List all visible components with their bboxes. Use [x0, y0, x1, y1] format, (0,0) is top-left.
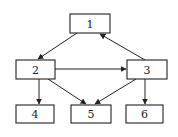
- node-6: 6: [126, 105, 163, 123]
- edge-3-to-5: [95, 79, 136, 104]
- node-6-label: 6: [141, 108, 148, 121]
- node-5: 5: [71, 105, 111, 123]
- node-4-label: 4: [32, 108, 39, 121]
- node-3: 3: [127, 60, 167, 79]
- graph-diagram: 1 2 3 4 5 6: [0, 0, 178, 137]
- node-2-label: 2: [32, 64, 39, 77]
- node-3-label: 3: [144, 64, 151, 77]
- edge-1-to-2: [38, 33, 77, 59]
- edge-2-to-5: [48, 79, 86, 104]
- edge-3-to-1: [100, 34, 145, 60]
- node-1: 1: [70, 14, 110, 33]
- node-5-label: 5: [88, 108, 95, 121]
- node-4: 4: [16, 105, 54, 123]
- node-1-label: 1: [87, 18, 94, 31]
- node-2: 2: [16, 60, 55, 79]
